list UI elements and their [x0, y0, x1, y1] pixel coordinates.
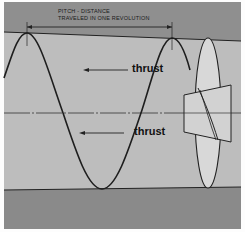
thrust-label-upper: thrust — [132, 62, 163, 74]
thrust-label-lower: thrust — [134, 125, 165, 137]
pitch-label-line-2: TRAVELED IN ONE REVOLUTION — [58, 15, 150, 22]
propeller-pitch-diagram: PITCH - DISTANCE TRAVELED IN ONE REVOLUT… — [0, 0, 245, 232]
bottom-band — [4, 187, 241, 229]
diagram-canvas — [0, 0, 245, 232]
pitch-label: PITCH - DISTANCE TRAVELED IN ONE REVOLUT… — [58, 8, 150, 21]
